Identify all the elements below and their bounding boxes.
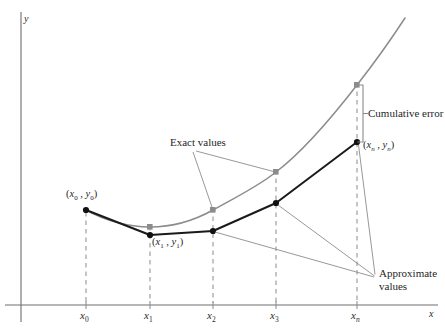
exact-values-leader-lines <box>193 151 274 209</box>
tick-label-x3-sub: 3 <box>275 315 279 324</box>
point-label-x0y0-comma: , <box>78 188 86 199</box>
tick-label-x1-sub: 1 <box>149 315 153 324</box>
tick-label-xn: xn <box>351 309 360 325</box>
tick-label-x2: x2 <box>207 309 216 325</box>
point-label-x1y1-close: ) <box>180 236 184 247</box>
bracket-stem <box>358 85 364 142</box>
tick-label-x2-sub: 2 <box>212 315 216 324</box>
approximate-values-leader-lines <box>215 145 375 277</box>
tick-label-x1: x1 <box>144 309 153 325</box>
point-label-x0y0-close: ) <box>94 188 98 199</box>
exact-marker-x1 <box>147 224 153 230</box>
cumulative-error-bracket <box>358 85 369 142</box>
leader-approx-to-x3 <box>278 205 375 276</box>
tick-label-x3: x3 <box>270 309 279 325</box>
point-label-x1y1-comma: , <box>164 236 172 247</box>
leader-approx-to-xn <box>359 145 376 275</box>
leader-exact-to-x2 <box>193 152 213 209</box>
point-label-x0y0: (x0 , y0) <box>66 188 97 202</box>
callout-cumulative-error: Cumulative error <box>368 107 443 120</box>
callout-approximate-values-line2: values <box>379 280 407 293</box>
callout-approximate-values-line1: Approximate <box>379 267 437 280</box>
point-label-xnyn-comma: , <box>375 139 383 150</box>
point-label-x1y1: (x1 , y1) <box>152 236 183 250</box>
approximate-value-markers <box>83 139 360 238</box>
exact-marker-x3 <box>273 169 279 175</box>
axis-group <box>5 12 438 322</box>
approx-marker-x2 <box>210 228 216 234</box>
point-label-xnyn: (xn , yn) <box>363 139 394 153</box>
tick-label-x0: x0 <box>80 309 89 325</box>
point-label-xnyn-close: ) <box>391 139 395 150</box>
x-axis-label: x <box>429 308 433 320</box>
dashed-guide-lines <box>86 83 357 303</box>
approx-marker-x0 <box>83 207 89 213</box>
callout-exact-values: Exact values <box>170 136 226 149</box>
exact-marker-x2 <box>210 207 216 213</box>
leader-approx-to-x2 <box>215 232 374 277</box>
tick-label-xn-sub: n <box>356 315 360 324</box>
approximate-euler-polyline <box>86 142 357 235</box>
exact-value-markers <box>147 82 360 230</box>
leader-exact-to-x3 <box>196 151 274 172</box>
tick-label-x0-sub: 0 <box>85 315 89 324</box>
figure-euler-error-diagram: y x x0 x1 x2 x3 xn (x0 , y0) (x1 , y1) (… <box>0 0 445 335</box>
y-axis-label: y <box>24 13 28 25</box>
